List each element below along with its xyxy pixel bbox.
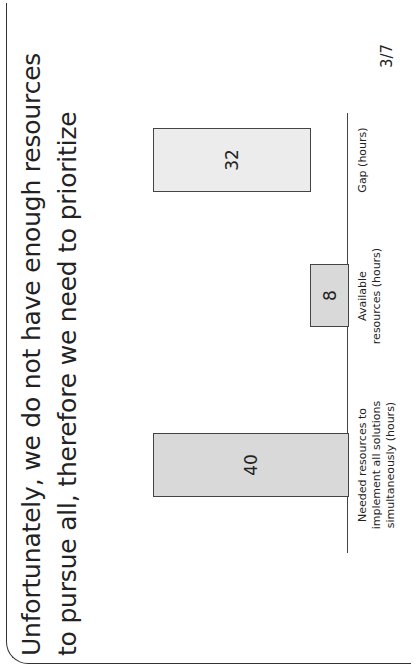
category-label-available: Available resources (hours): [356, 236, 384, 356]
label-line: Needed resources to: [356, 380, 370, 550]
bar-value-available: 8: [320, 290, 340, 301]
title-line-2: to pursue all, therefore we need to prio…: [50, 53, 86, 656]
bar-needed: 40: [153, 433, 349, 497]
label-line: resources (hours): [370, 236, 384, 356]
bar-gap: 32: [153, 128, 311, 192]
bar-value-gap: 32: [222, 149, 242, 171]
label-line: implement all solutions: [370, 380, 384, 550]
bar-value-needed: 40: [241, 454, 261, 476]
category-label-gap: Gap (hours): [356, 110, 370, 210]
slide: Unfortunately, we do not have enough res…: [0, 0, 417, 672]
bar-available: 8: [310, 264, 349, 327]
title-line-1: Unfortunately, we do not have enough res…: [14, 53, 50, 656]
label-line: Gap (hours): [356, 110, 370, 210]
slide-title: Unfortunately, we do not have enough res…: [14, 53, 86, 656]
label-line: simultaneously (hours): [384, 380, 398, 550]
category-label-needed: Needed resources to implement all soluti…: [356, 380, 398, 550]
label-line: Available: [356, 236, 370, 356]
page-number: 3/7: [378, 44, 396, 68]
